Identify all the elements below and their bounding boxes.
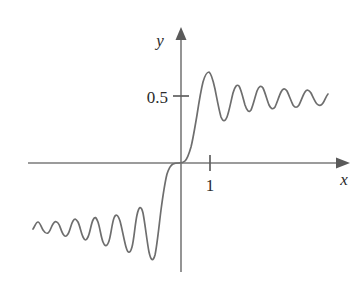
x-axis-label: x (339, 170, 348, 189)
y-axis-label: y (154, 31, 164, 50)
y-axis-arrowhead (176, 27, 187, 40)
x-axis-arrowhead (336, 158, 350, 169)
y-tick-label-0-5: 0.5 (147, 88, 168, 107)
plot-canvas: y x 0.5 1 (0, 0, 361, 282)
graph-figure: y x 0.5 1 (0, 0, 361, 282)
x-tick-label-1: 1 (206, 176, 215, 195)
